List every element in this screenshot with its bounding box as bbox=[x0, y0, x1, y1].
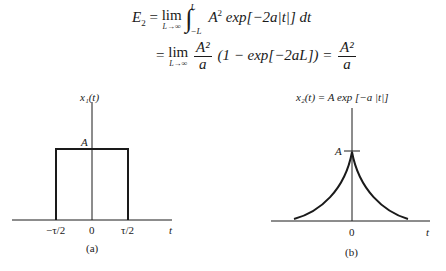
amplitude-label: A bbox=[334, 145, 342, 157]
tick-zero: 0 bbox=[349, 226, 355, 238]
amplitude-label: A bbox=[80, 136, 88, 148]
tick-zero: 0 bbox=[89, 224, 95, 236]
figures: x₁(t) A −τ/2 0 τ/2 t (a) x₂(t) = A exp [… bbox=[0, 0, 446, 271]
tick-tau-half: τ/2 bbox=[121, 224, 134, 236]
caption: (a) bbox=[86, 242, 99, 255]
figure-a: x₁(t) A −τ/2 0 τ/2 t (a) bbox=[12, 91, 173, 255]
caption: (b) bbox=[345, 246, 358, 259]
tick-neg-tau-half: −τ/2 bbox=[46, 224, 65, 236]
y-label: x₂(t) = A exp [−a |t|] bbox=[295, 91, 388, 104]
figure-b: x₂(t) = A exp [−a |t|] A 0 t (b) bbox=[271, 91, 430, 259]
x-label: t bbox=[426, 226, 430, 238]
x-label: t bbox=[169, 224, 173, 236]
exponential-curve bbox=[294, 152, 408, 219]
y-label: x₁(t) bbox=[79, 91, 99, 104]
